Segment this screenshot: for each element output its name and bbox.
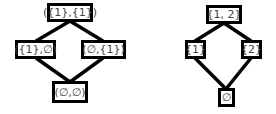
- node-bottom: ∅: [218, 88, 235, 107]
- node-bottom: (∅,∅): [52, 81, 88, 103]
- edge-left-bottom: [195, 58, 226, 89]
- node-right: {2}: [241, 40, 262, 59]
- edge-top-left: [195, 23, 224, 41]
- node-left: {1}: [185, 40, 206, 59]
- edge-right-bottom: [226, 58, 251, 89]
- node-top: {1, 2}: [206, 5, 242, 24]
- node-right: (∅,{1}): [81, 40, 126, 59]
- edge-left-bottom: [36, 58, 70, 82]
- node-top: ({1},{1}): [47, 3, 93, 22]
- edge-top-right: [70, 21, 103, 41]
- edge-top-right: [224, 23, 251, 41]
- node-left: ({1},∅): [15, 40, 56, 59]
- edge-top-left: [36, 21, 70, 41]
- edge-right-bottom: [70, 58, 103, 82]
